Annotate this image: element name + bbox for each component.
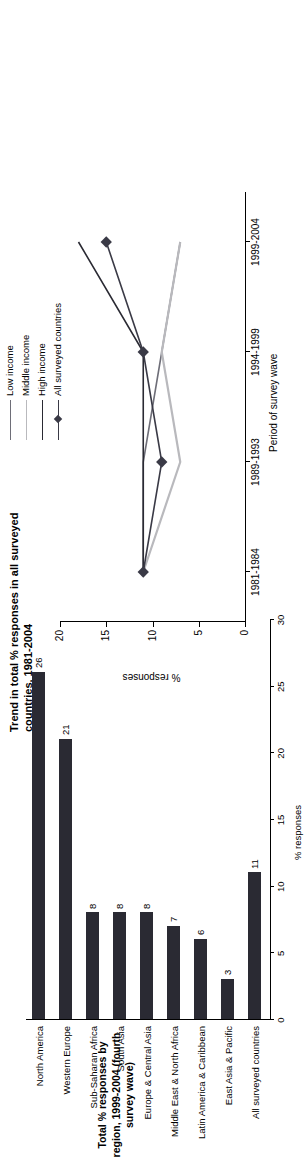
value-tick-mark-20 [270,752,274,753]
bar-category-label-latin-america-caribbean: Latin America & Caribbean [196,1026,207,1161]
bar-sub-saharan-africa [86,912,99,1019]
line-chart-legend: Low income Middle income High income All… [2,140,58,440]
legend-label-middle-income: Middle income [20,335,31,396]
value-tick-label-25: 25 [275,672,286,702]
bar-category-label-all-surveyed-countries: All surveyed countries [250,1026,261,1146]
x-tick-label-1994-1999: 1994-1999 [250,307,261,397]
bar-east-asia-pacific [221,979,234,1019]
value-tick-label-15: 15 [275,805,286,835]
bar-all-surveyed-countries [248,872,261,1019]
legend-label-high-income: High income [36,343,47,396]
value-tick-label-30: 30 [275,605,286,635]
bar-category-label-south-asia: South Asia [115,1026,126,1136]
bar-category-label-sub-saharan-africa: Sub-Saharan Africa [88,1026,99,1136]
value-tick-mark-15 [270,819,274,820]
bar-value-label-east-asia-pacific: 3 [222,970,233,975]
bar-chart-panel: Total % responses by region, 1999-2004 (… [0,430,304,1161]
legend-label-low-income: Low income [4,345,15,396]
bar-value-label-western-europe: 21 [60,724,71,735]
bar-europe-central-asia [140,912,153,1019]
bar-value-label-all-surveyed-countries: 11 [249,859,260,869]
bar-chart-plot: 0 5 10 15 20 25 30 % responses North Ame… [26,590,270,1020]
value-tick-mark-25 [270,686,274,687]
value-tick-mark-10 [270,886,274,887]
bar-western-europe [59,739,72,1019]
value-tick-mark-30 [270,619,274,620]
bar-north-america [32,672,45,1019]
bar-category-label-western-europe: Western Europe [61,1026,72,1136]
value-tick-label-20: 20 [275,738,286,768]
value-tick-mark-0 [270,1019,274,1020]
bar-value-label-sub-saharan-africa: 8 [87,904,98,909]
x-tick-label-1999-2004: 1999-2004 [250,197,261,287]
bar-value-label-south-asia: 8 [114,904,125,909]
bar-value-label-europe-central-asia: 8 [141,904,152,909]
value-tick-mark-5 [270,952,274,953]
bar-chart-value-axis [270,620,271,1020]
bar-south-asia [113,912,126,1019]
bar-value-label-latin-america-caribbean: 6 [195,930,206,935]
bar-category-label-east-asia-pacific: East Asia & Pacific [223,1026,234,1136]
bar-middle-east-north-africa [167,926,180,1019]
value-tick-label-10: 10 [275,872,286,902]
bar-category-label-middle-east-north-africa: Middle East & North Africa [169,1026,180,1161]
bar-latin-america-caribbean [194,939,207,1019]
bar-value-label-middle-east-north-africa: 7 [168,917,179,922]
bar-chart-category-axis [26,1019,270,1020]
value-tick-label-0: 0 [275,1005,286,1035]
bar-value-label-north-america: 26 [33,657,44,668]
value-tick-label-5: 5 [275,938,286,968]
bar-chart-value-axis-label: % responses [292,805,303,860]
bar-category-label-north-america: North America [34,1026,45,1136]
bar-category-label-europe-central-asia: Europe & Central Asia [142,1026,153,1146]
